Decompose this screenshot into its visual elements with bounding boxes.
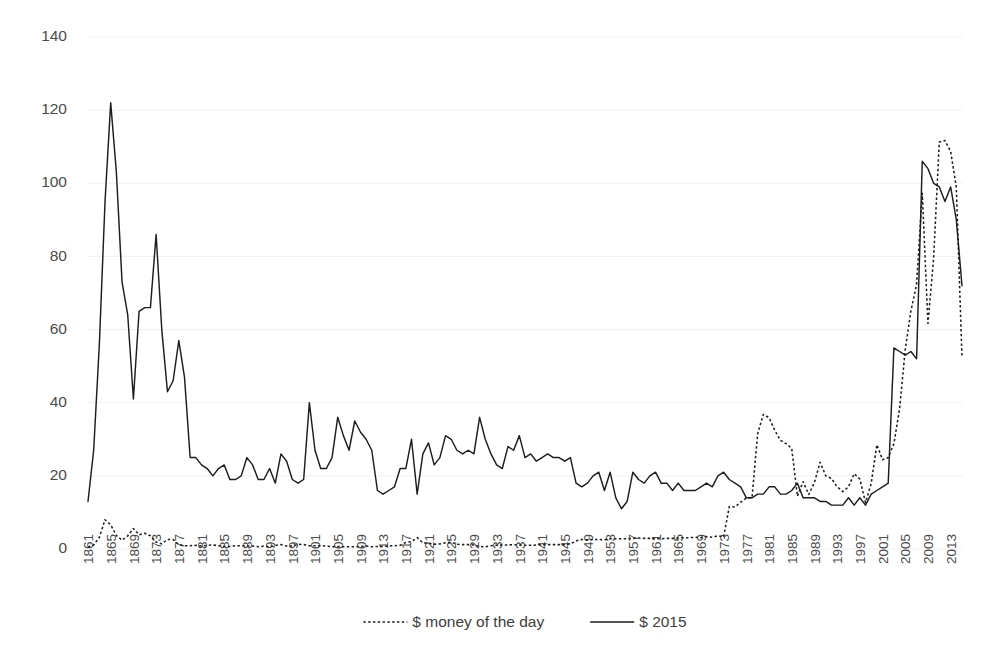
- x-axis-label-1977: 1977: [740, 534, 755, 564]
- x-axis-label-1929: 1929: [467, 534, 482, 564]
- x-axis-label-1905: 1905: [331, 534, 346, 564]
- x-axis-label-2005: 2005: [898, 534, 913, 564]
- x-axis-label-1897: 1897: [286, 534, 301, 564]
- x-axis-label-1993: 1993: [830, 534, 845, 564]
- line-chart: 020406080100120140 186118651869187318771…: [0, 0, 1002, 670]
- y-axis-label-140: 140: [41, 27, 67, 44]
- x-axis-label-1925: 1925: [444, 534, 459, 564]
- x-axis-label-1889: 1889: [240, 534, 255, 564]
- x-axis-label-1941: 1941: [535, 534, 550, 564]
- x-axis-label-1877: 1877: [172, 534, 187, 564]
- x-axis-label-2013: 2013: [944, 534, 959, 564]
- legend-label-money-of-the-day: $ money of the day: [412, 613, 544, 630]
- y-axis-label-120: 120: [41, 100, 67, 117]
- x-axis-label-1881: 1881: [195, 534, 210, 564]
- y-axis-label-60: 60: [50, 320, 68, 337]
- x-axis-label-2001: 2001: [876, 534, 891, 564]
- x-axis-label-1917: 1917: [399, 534, 414, 564]
- chart-background: [0, 0, 1002, 670]
- x-axis-label-2009: 2009: [921, 534, 936, 564]
- x-axis-label-1865: 1865: [104, 534, 119, 564]
- x-axis-label-1997: 1997: [853, 534, 868, 564]
- y-axis-label-40: 40: [50, 393, 68, 410]
- y-axis-label-100: 100: [41, 173, 67, 190]
- y-axis-label-0: 0: [58, 539, 67, 556]
- x-axis-label-1989: 1989: [808, 534, 823, 564]
- legend-label-2015: $ 2015: [639, 613, 686, 630]
- x-axis-label-1945: 1945: [558, 534, 573, 564]
- x-axis-label-1981: 1981: [762, 534, 777, 564]
- x-axis-label-1873: 1873: [149, 534, 164, 564]
- x-axis-label-1921: 1921: [422, 534, 437, 564]
- x-axis-label-1933: 1933: [490, 534, 505, 564]
- x-axis-label-1973: 1973: [717, 534, 732, 564]
- x-axis-label-1885: 1885: [217, 534, 232, 564]
- x-axis-label-1901: 1901: [308, 534, 323, 564]
- x-axis-label-1861: 1861: [81, 534, 96, 564]
- chart-container: 020406080100120140 186118651869187318771…: [0, 0, 1002, 670]
- y-axis-label-20: 20: [50, 466, 68, 483]
- x-axis-label-1937: 1937: [513, 534, 528, 564]
- x-axis-label-1985: 1985: [785, 534, 800, 564]
- x-axis-label-1913: 1913: [376, 534, 391, 564]
- x-axis-label-1949: 1949: [581, 534, 596, 564]
- x-axis-label-1969: 1969: [694, 534, 709, 564]
- y-axis-label-80: 80: [50, 247, 68, 264]
- x-axis-label-1909: 1909: [354, 534, 369, 564]
- x-axis-label-1961: 1961: [649, 534, 664, 564]
- x-axis-label-1869: 1869: [127, 534, 142, 564]
- x-axis-label-1893: 1893: [263, 534, 278, 564]
